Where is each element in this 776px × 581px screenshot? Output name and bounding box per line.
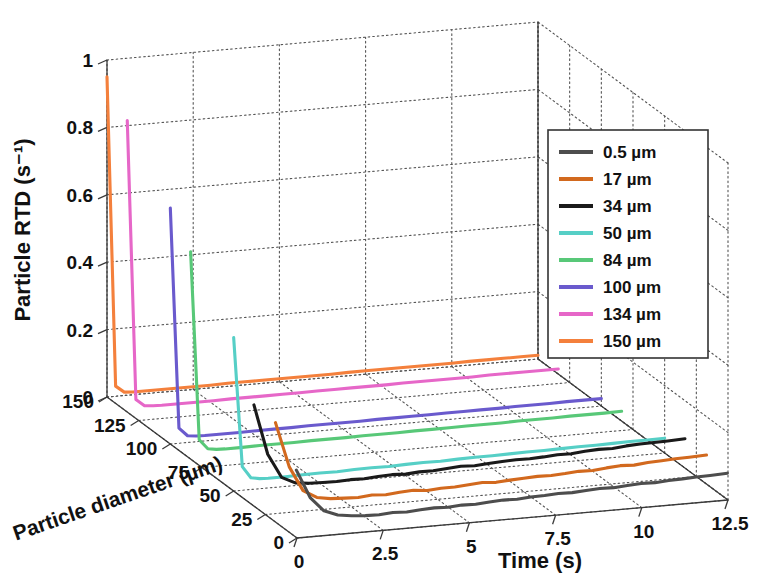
tick-label-diameter: 0 bbox=[273, 532, 284, 553]
figure-3d-particle-rtd: 00.20.40.60.81025507510012515002.557.510… bbox=[0, 0, 776, 581]
axis-floor-right-edge bbox=[538, 359, 728, 500]
tick-label-diameter: 50 bbox=[200, 485, 221, 506]
tick-label-time: 2.5 bbox=[372, 543, 399, 564]
tick-mark-rtd bbox=[98, 60, 107, 64]
legend-label-2: 34 µm bbox=[603, 197, 652, 216]
tick-mark-time bbox=[725, 500, 728, 509]
tick-label-time: 10 bbox=[633, 521, 654, 542]
tick-label-rtd: 0.6 bbox=[67, 185, 93, 206]
tick-label-time: 5 bbox=[466, 536, 477, 557]
series-line-0.5um bbox=[296, 470, 727, 516]
tick-label-time: 7.5 bbox=[544, 528, 571, 549]
tick-mark-time bbox=[553, 515, 556, 524]
legend-label-5: 100 µm bbox=[603, 278, 661, 297]
tick-label-time: 0 bbox=[294, 551, 305, 572]
series-line-50um bbox=[234, 338, 665, 479]
tick-mark-diameter bbox=[257, 515, 265, 520]
tick-mark-diameter bbox=[131, 421, 139, 426]
tick-label-rtd: 1 bbox=[82, 50, 93, 71]
tick-label-diameter: 100 bbox=[126, 438, 158, 459]
legend-label-6: 134 µm bbox=[603, 305, 661, 324]
legend-label-1: 17 µm bbox=[603, 170, 652, 189]
gridline-floor-depth bbox=[279, 382, 469, 523]
legend-label-7: 150 µm bbox=[603, 332, 661, 351]
tick-mark-time bbox=[466, 523, 469, 532]
tick-mark-time bbox=[380, 530, 383, 539]
tick-mark-rtd bbox=[98, 330, 107, 334]
gridline-wall-back-horizontal bbox=[107, 89, 538, 127]
legend-label-3: 50 µm bbox=[603, 224, 652, 243]
tick-mark-rtd bbox=[98, 262, 107, 266]
tick-mark-rtd bbox=[98, 195, 107, 199]
gridline-wall-back-horizontal bbox=[107, 292, 538, 330]
tick-label-rtd: 0.4 bbox=[67, 252, 94, 273]
series-line-100um bbox=[170, 208, 601, 436]
series-line-17um bbox=[275, 423, 706, 499]
gridline-wall-back-horizontal bbox=[107, 22, 538, 60]
plot-svg: 00.20.40.60.81025507510012515002.557.510… bbox=[0, 0, 776, 581]
tick-label-diameter: 25 bbox=[231, 509, 253, 530]
tick-label-rtd: 0.8 bbox=[67, 117, 93, 138]
axis-title-time: Time (s) bbox=[498, 548, 582, 573]
tick-label-diameter: 150 bbox=[62, 391, 94, 412]
axis-title-diameter: Particle diameter (µm) bbox=[10, 451, 225, 544]
tick-label-rtd: 0.2 bbox=[67, 320, 93, 341]
legend-label-4: 84 µm bbox=[603, 251, 652, 270]
tick-mark-diameter bbox=[162, 444, 170, 449]
tick-mark-time bbox=[639, 508, 642, 517]
tick-label-time: 12.5 bbox=[712, 513, 749, 534]
tick-mark-diameter bbox=[226, 491, 234, 496]
axis-title-rtd: Particle RTD (s⁻¹) bbox=[10, 138, 35, 321]
tick-mark-rtd bbox=[98, 127, 107, 131]
tick-label-diameter: 125 bbox=[94, 415, 126, 436]
gridline-wall-back-horizontal bbox=[107, 157, 538, 195]
legend-label-0: 0.5 µm bbox=[603, 143, 656, 162]
